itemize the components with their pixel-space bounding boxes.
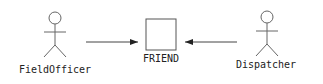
use-case-diagram: FieldOfficer FRIEND Dispatcher bbox=[0, 0, 323, 84]
system-box bbox=[146, 19, 176, 50]
actor-field-officer[interactable]: FieldOfficer bbox=[19, 12, 91, 75]
stick-figure-icon bbox=[256, 11, 278, 56]
system-friend[interactable]: FRIEND bbox=[143, 19, 179, 64]
actor-label-dispatcher: Dispatcher bbox=[236, 59, 296, 70]
actor-dispatcher[interactable]: Dispatcher bbox=[236, 11, 296, 70]
stick-figure-icon bbox=[44, 12, 66, 57]
system-label: FRIEND bbox=[143, 53, 179, 64]
actor-label-field-officer: FieldOfficer bbox=[19, 64, 91, 75]
